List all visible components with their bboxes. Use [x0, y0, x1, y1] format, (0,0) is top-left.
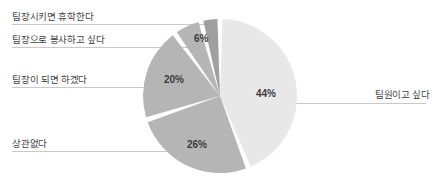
- pie-chart-canvas: [0, 0, 438, 182]
- category-label: 상관없다: [12, 138, 47, 150]
- slice-percent-label: 6%: [194, 33, 208, 44]
- category-label: 팀장으로 봉사하고 싶다: [12, 34, 105, 46]
- slice-percent-label: 26%: [187, 139, 207, 150]
- slice-percent-label: 44%: [256, 88, 276, 99]
- pie-chart-figure: 팀장시키면 휴학한다팀장으로 봉사하고 싶다팀장이 되면 하겠다상관없다팀원이고…: [0, 0, 438, 182]
- category-label: 팀장이 되면 하겠다: [12, 74, 87, 86]
- category-label: 팀원이고 싶다: [375, 89, 430, 101]
- category-label: 팀장시키면 휴학한다: [12, 11, 94, 23]
- slice-percent-label: 20%: [164, 74, 184, 85]
